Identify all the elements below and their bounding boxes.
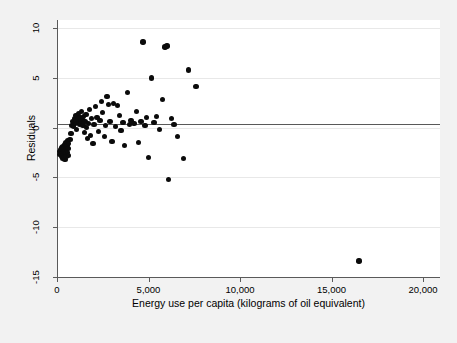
y-tick-label: 10 <box>29 15 43 41</box>
y-tick-label: 5 <box>29 65 43 91</box>
x-tick-label: 5,000 <box>119 284 179 295</box>
x-tick-label: 20,000 <box>393 284 453 295</box>
x-tick-label: 10,000 <box>210 284 270 295</box>
chart-figure: Residuals Energy use per capita (kilogra… <box>0 0 457 343</box>
y-tick-label: -5 <box>29 164 43 190</box>
x-tick-label: 0 <box>27 284 87 295</box>
y-tick-label: -10 <box>29 214 43 240</box>
y-tick-label: 0 <box>29 115 43 141</box>
plot-area <box>57 20 440 278</box>
x-tick-label: 15,000 <box>302 284 362 295</box>
x-axis-title: Energy use per capita (kilograms of oil … <box>57 297 440 309</box>
